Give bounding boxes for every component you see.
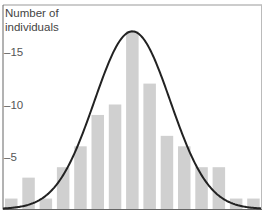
histogram-bar	[74, 146, 87, 209]
histogram-bar	[109, 105, 122, 210]
y-axis-label: Number of individuals	[5, 6, 59, 34]
y-tick-label: –15	[4, 46, 23, 58]
y-axis-label-line1: Number of	[5, 6, 59, 20]
histogram-bar	[126, 31, 139, 209]
histogram-bar	[40, 199, 53, 209]
histogram-bar	[143, 84, 156, 209]
y-axis-label-line2: individuals	[5, 20, 59, 34]
histogram-bar	[213, 167, 226, 209]
y-tick-label: –5	[4, 151, 17, 163]
histogram-bar	[92, 115, 105, 209]
histogram-bar	[178, 146, 191, 209]
y-tick-label: –10	[4, 99, 23, 111]
histogram-bar	[161, 136, 174, 209]
